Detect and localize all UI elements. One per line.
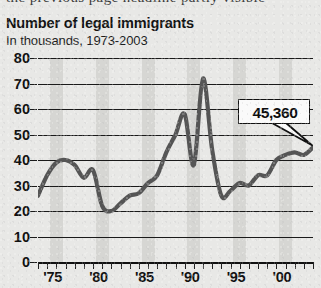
value-callout-box: 45,360 [238,99,310,124]
callout-value-label: 45,360 [239,100,311,125]
callout-pointer-icon [0,0,321,288]
